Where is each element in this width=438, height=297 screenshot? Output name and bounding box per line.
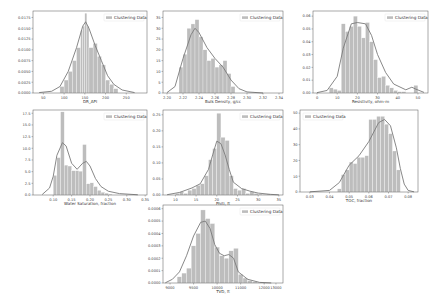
histogram-bar <box>196 233 201 283</box>
histogram-bar <box>219 256 224 283</box>
histogram-bar <box>191 246 196 283</box>
histogram-bar <box>238 274 243 283</box>
y-tick-label: 0.0005 <box>148 219 161 223</box>
y-axis: 0.00000.00010.00020.00030.00040.00050.00… <box>148 207 163 285</box>
y-tick-label: 0.0001 <box>148 269 161 273</box>
legend-patch-icon <box>242 210 248 213</box>
histogram-bars <box>177 210 257 283</box>
y-tick-label: 0.0000 <box>148 281 161 285</box>
y-tick-label: 0.0003 <box>148 244 161 248</box>
x-tick-label: 9000 <box>165 286 175 290</box>
histogram-bar <box>182 273 187 283</box>
histogram-bar <box>248 281 253 283</box>
x-tick-label: 12000 <box>258 286 270 290</box>
x-axis-label: TVD, ft <box>215 289 230 294</box>
x-tick-label: 11000 <box>235 286 247 290</box>
x-tick-label: 9500 <box>189 286 199 290</box>
legend: Clustering Data <box>240 208 283 215</box>
legend-label: Clustering Data <box>250 209 283 214</box>
histogram-bar <box>187 268 192 283</box>
y-tick-label: 0.0006 <box>148 207 161 211</box>
histogram-bar <box>205 219 210 283</box>
y-tick-label: 0.0004 <box>148 232 161 236</box>
x-tick-label: 13000 <box>270 286 282 290</box>
histogram-bar <box>177 277 182 283</box>
histogram-bar <box>224 258 229 283</box>
y-tick-label: 0.0002 <box>148 257 161 261</box>
